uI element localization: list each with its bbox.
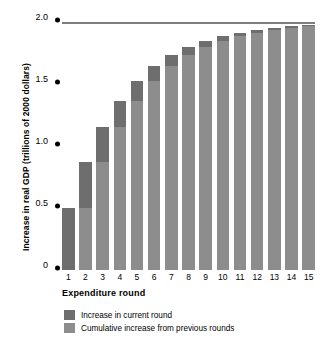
bar-series-group xyxy=(62,22,315,270)
bar-round-1 xyxy=(62,208,75,270)
x-tick-label-6: 6 xyxy=(148,272,161,282)
x-tick-label-7: 7 xyxy=(165,272,178,282)
bar-segment-current-round xyxy=(96,127,109,162)
bar-segment-current-round xyxy=(79,162,92,209)
y-tick-marker xyxy=(55,79,60,84)
bar-segment-previous-rounds xyxy=(79,208,92,270)
legend-item-previous-rounds: Cumulative increase from previous rounds xyxy=(64,323,314,333)
bar-round-12 xyxy=(251,30,264,270)
bar-segment-current-round xyxy=(165,55,178,66)
bar-segment-previous-rounds xyxy=(114,127,127,270)
bar-round-9 xyxy=(199,41,212,270)
bar-round-5 xyxy=(131,81,144,270)
x-tick-label-10: 10 xyxy=(217,272,230,282)
x-tick-label-13: 13 xyxy=(268,272,281,282)
bar-segment-previous-rounds xyxy=(199,47,212,270)
x-tick-label-14: 14 xyxy=(285,272,298,282)
y-tick-label: 1.5 xyxy=(35,74,48,84)
bar-segment-previous-rounds xyxy=(251,33,264,270)
legend-label-current-round: Increase in current round xyxy=(81,311,172,320)
bar-segment-current-round xyxy=(182,47,195,55)
bar-segment-current-round xyxy=(114,101,127,127)
y-tick-marker xyxy=(55,141,60,146)
bar-segment-previous-rounds xyxy=(285,28,298,270)
x-axis-title: Expenditure round xyxy=(62,288,145,298)
bar-segment-current-round xyxy=(131,81,144,101)
x-tick-label-3: 3 xyxy=(96,272,109,282)
bar-segment-previous-rounds xyxy=(96,162,109,271)
bar-round-14 xyxy=(285,26,298,270)
y-tick-marker xyxy=(55,203,60,208)
x-tick-label-15: 15 xyxy=(302,272,315,282)
bar-round-11 xyxy=(234,33,247,270)
plot-area: 00.51.01.52.0 xyxy=(62,22,315,270)
x-tick-label-5: 5 xyxy=(131,272,144,282)
bar-round-7 xyxy=(165,55,178,270)
bar-round-8 xyxy=(182,47,195,270)
y-tick-label: 0.5 xyxy=(35,198,48,208)
x-tick-label-2: 2 xyxy=(79,272,92,282)
bar-segment-previous-rounds xyxy=(234,36,247,270)
bar-segment-previous-rounds xyxy=(182,55,195,270)
x-axis-ticks: 123456789101112131415 xyxy=(62,272,315,282)
legend-swatch-current-round xyxy=(64,310,75,320)
x-tick-label-9: 9 xyxy=(199,272,212,282)
y-axis-title: Increase in real GDP (trillions of 2000 … xyxy=(21,27,31,287)
chart-figure: Increase in real GDP (trillions of 2000 … xyxy=(0,0,324,350)
bar-segment-previous-rounds xyxy=(268,30,281,270)
x-tick-label-12: 12 xyxy=(251,272,264,282)
bar-round-3 xyxy=(96,127,109,270)
y-tick-marker xyxy=(55,17,60,22)
x-tick-label-4: 4 xyxy=(114,272,127,282)
bar-round-6 xyxy=(148,66,161,270)
bar-segment-previous-rounds xyxy=(217,41,230,270)
legend-item-current-round: Increase in current round xyxy=(64,310,314,320)
bar-segment-previous-rounds xyxy=(165,66,178,270)
bar-round-2 xyxy=(79,162,92,271)
bar-round-15 xyxy=(302,25,315,270)
bar-segment-previous-rounds xyxy=(302,26,315,270)
y-tick-label: 1.0 xyxy=(35,136,48,146)
x-tick-label-8: 8 xyxy=(182,272,195,282)
bar-segment-current-round xyxy=(62,208,75,270)
bar-segment-previous-rounds xyxy=(131,101,144,271)
legend-label-previous-rounds: Cumulative increase from previous rounds xyxy=(81,324,234,333)
chart-legend: Increase in current round Cumulative inc… xyxy=(64,310,314,336)
y-tick-label: 0 xyxy=(43,260,48,270)
bar-round-4 xyxy=(114,101,127,271)
bar-segment-current-round xyxy=(148,66,161,81)
bar-segment-previous-rounds xyxy=(148,81,161,270)
bar-round-13 xyxy=(268,28,281,270)
legend-swatch-previous-rounds xyxy=(64,323,75,333)
bar-round-10 xyxy=(217,36,230,270)
x-tick-label-1: 1 xyxy=(62,272,75,282)
y-tick-marker xyxy=(55,265,60,270)
y-tick-label: 2.0 xyxy=(35,12,48,22)
x-tick-label-11: 11 xyxy=(234,272,247,282)
